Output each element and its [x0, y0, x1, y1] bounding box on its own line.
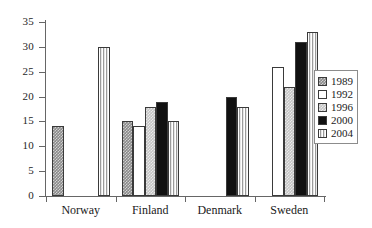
legend-label: 2004	[331, 128, 353, 139]
legend-label: 2000	[331, 115, 353, 126]
bar-norway-2004	[98, 47, 110, 196]
x-axis-group-label: Denmark	[185, 203, 255, 217]
legend-swatch-icon	[318, 103, 327, 112]
bar-finland-1996	[145, 107, 157, 196]
legend-label: 1996	[331, 102, 353, 113]
legend: 1989 1992 1996 2000 2004	[314, 70, 358, 144]
plot-area	[46, 22, 324, 196]
x-axis-group-label: Norway	[46, 203, 116, 217]
legend-swatch-icon	[318, 129, 327, 138]
bar-chart: 05101520253035 NorwayFinlandDenmarkSwede…	[0, 0, 372, 228]
y-axis-tick-label: 30	[8, 41, 34, 52]
legend-item[interactable]: 1989	[318, 75, 353, 87]
bar-denmark-2004	[237, 107, 249, 196]
bar-finland-2004	[168, 121, 180, 196]
bar-sweden-2000	[295, 42, 307, 196]
bar-finland-1989	[122, 121, 134, 196]
x-axis-group-label: Finland	[116, 203, 186, 217]
y-axis-tick-label: 0	[8, 190, 34, 201]
legend-item[interactable]: 1996	[318, 101, 353, 113]
bar-finland-1992	[133, 126, 145, 196]
bar-sweden-1996	[284, 87, 296, 196]
y-axis-tick	[39, 171, 45, 172]
y-axis-tick	[39, 196, 45, 197]
bar-finland-2000	[156, 102, 168, 196]
y-axis-tick-label: 20	[8, 91, 34, 102]
x-axis-tick	[185, 196, 186, 202]
x-axis-tick	[46, 196, 47, 202]
x-axis-group-label: Sweden	[255, 203, 325, 217]
legend-label: 1992	[331, 89, 353, 100]
y-axis-tick-label: 35	[8, 16, 34, 27]
y-axis-tick-label: 10	[8, 140, 34, 151]
bar-norway-1989	[52, 126, 64, 196]
y-axis-tick	[39, 72, 45, 73]
y-axis-tick-label: 15	[8, 115, 34, 126]
x-axis-tick	[324, 196, 325, 202]
bar-sweden-1992	[272, 67, 284, 196]
y-axis-tick	[39, 22, 45, 23]
legend-item[interactable]: 2004	[318, 127, 353, 139]
legend-item[interactable]: 2000	[318, 114, 353, 126]
y-axis-tick	[39, 146, 45, 147]
y-axis-tick	[39, 121, 45, 122]
y-axis-tick-label: 25	[8, 66, 34, 77]
x-axis-tick	[116, 196, 117, 202]
legend-label: 1989	[331, 76, 353, 87]
y-axis-tick-label: 5	[8, 165, 34, 176]
legend-swatch-icon	[318, 116, 327, 125]
legend-swatch-icon	[318, 90, 327, 99]
legend-item[interactable]: 1992	[318, 88, 353, 100]
y-axis-tick	[39, 47, 45, 48]
y-axis-tick	[39, 97, 45, 98]
legend-swatch-icon	[318, 77, 327, 86]
x-axis-tick	[255, 196, 256, 202]
bar-denmark-2000	[226, 97, 238, 196]
